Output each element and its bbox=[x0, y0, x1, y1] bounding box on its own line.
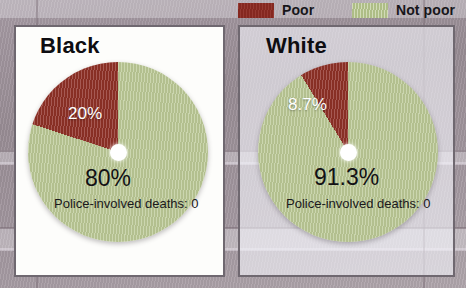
slice-label-poor-white: 8.7% bbox=[288, 95, 327, 115]
slice-label-not-poor-black: 80% bbox=[85, 165, 131, 192]
annotation-police-deaths-black: Police-involved deaths: 0 bbox=[54, 196, 182, 211]
slice-label-not-poor-white: 91.3% bbox=[314, 164, 379, 191]
panel-black[interactable]: Black 20% 80% Police-involved deaths: 0 bbox=[14, 25, 225, 277]
slice-label-poor-black: 20% bbox=[68, 104, 102, 124]
legend-item-poor[interactable]: Poor bbox=[238, 1, 314, 19]
page-title-white: White bbox=[266, 33, 327, 59]
pie-chart-black[interactable]: 20% 80% Police-involved deaths: 0 bbox=[28, 62, 208, 242]
annotation-police-deaths-white: Police-involved deaths: 0 bbox=[286, 196, 414, 211]
legend-label-poor: Poor bbox=[282, 2, 314, 18]
pie-chart-white[interactable]: 8.7% 91.3% Police-involved deaths: 0 bbox=[258, 62, 438, 242]
swatch-not-poor-icon bbox=[352, 3, 388, 18]
panel-white[interactable]: White 8.7% 91.3% Police-involved deaths:… bbox=[238, 25, 455, 277]
legend-label-not-poor: Not poor bbox=[396, 2, 455, 18]
pie-center-hub-black bbox=[110, 144, 127, 161]
legend-item-not-poor[interactable]: Not poor bbox=[352, 1, 455, 19]
swatch-poor-icon bbox=[238, 3, 274, 18]
chart-legend: Poor Not poor bbox=[0, 0, 466, 22]
pie-center-hub-white bbox=[340, 144, 357, 161]
page-title-black: Black bbox=[40, 33, 100, 59]
